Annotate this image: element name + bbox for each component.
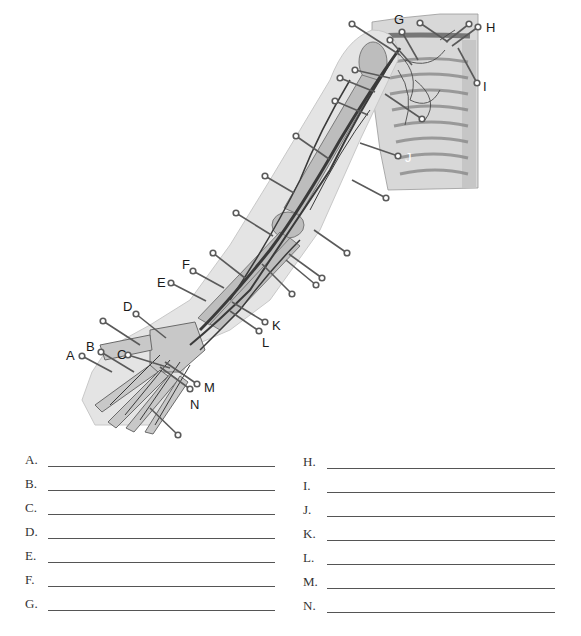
answer-blank-k[interactable] [327, 540, 555, 541]
answer-letter: H. [303, 454, 316, 470]
answer-row-j: J. [303, 502, 557, 522]
answer-letter: L. [303, 550, 314, 566]
answer-letter: A. [25, 452, 38, 468]
answer-blank-f[interactable] [48, 586, 275, 587]
answer-letter: I. [303, 478, 311, 494]
answer-letter: N. [303, 598, 316, 614]
answer-letter: M. [303, 574, 318, 590]
answer-letter: J. [303, 502, 311, 518]
answer-blank-e[interactable] [48, 562, 275, 563]
answer-row-h: H. [303, 454, 557, 474]
answer-row-b: B. [25, 476, 277, 496]
answer-blank-d[interactable] [48, 538, 275, 539]
answer-blank-m[interactable] [327, 588, 555, 589]
answer-blank-c[interactable] [48, 514, 275, 515]
answer-blank-i[interactable] [327, 492, 555, 493]
callout-label-l: L [262, 336, 269, 349]
answer-letter: C. [25, 500, 37, 516]
answer-row-f: F. [25, 572, 277, 592]
callout-label-j: J [405, 151, 412, 164]
callout-label-f: F [182, 258, 190, 271]
answer-letter: D. [25, 524, 38, 540]
callout-label-h: H [486, 21, 495, 34]
callout-label-c: C [117, 348, 126, 361]
callout-label-m: M [204, 381, 215, 394]
answer-row-d: D. [25, 524, 277, 544]
answer-letter: E. [25, 548, 36, 564]
answer-blank-b[interactable] [48, 490, 275, 491]
answer-letter: F. [25, 572, 34, 588]
answer-row-a: A. [25, 452, 277, 472]
answer-row-l: L. [303, 550, 557, 570]
callout-label-g: G [394, 13, 404, 26]
answer-blank-g[interactable] [48, 610, 275, 611]
answer-blank-h[interactable] [327, 468, 555, 469]
answer-blank-l[interactable] [327, 564, 555, 565]
arm-silhouette [82, 30, 398, 425]
answer-row-g: G. [25, 596, 277, 616]
answer-row-c: C. [25, 500, 277, 520]
answer-row-i: I. [303, 478, 557, 498]
answer-letter: G. [25, 596, 38, 612]
answer-blank-n[interactable] [327, 612, 555, 613]
answer-row-n: N. [303, 598, 557, 618]
callout-label-d: D [123, 300, 132, 313]
callout-label-e: E [157, 276, 166, 289]
callout-label-i: I [483, 80, 487, 93]
answer-blank-j[interactable] [327, 516, 555, 517]
callout-label-k: K [272, 319, 281, 332]
answer-letter: B. [25, 476, 37, 492]
callout-label-n: N [190, 398, 199, 411]
anatomy-figure: A B C D E F G H I J K L M N [0, 0, 581, 440]
arm-vessel-illustration [0, 0, 581, 440]
answer-row-e: E. [25, 548, 277, 568]
answer-letter: K. [303, 526, 316, 542]
answer-row-m: M. [303, 574, 557, 594]
answer-blank-a[interactable] [48, 466, 275, 467]
callout-label-b: B [86, 340, 95, 353]
answer-row-k: K. [303, 526, 557, 546]
callout-label-a: A [66, 349, 75, 362]
